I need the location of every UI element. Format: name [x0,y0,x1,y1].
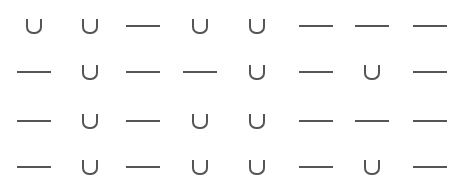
dash-symbol-icon [413,166,447,168]
symbol-cell [237,57,277,87]
cup-symbol-icon [82,65,98,80]
cup-symbol-icon [364,65,380,80]
dash-symbol-icon [299,71,333,73]
cup-symbol-icon [82,114,98,129]
cup-symbol-icon [192,160,208,175]
symbol-cell [352,152,392,182]
symbol-cell [237,11,277,41]
cup-symbol-icon [249,114,265,129]
dash-symbol-icon [17,120,51,122]
dash-symbol-icon [126,71,160,73]
symbol-cell [410,106,450,136]
symbol-cell [123,11,163,41]
dash-symbol-icon [17,71,51,73]
symbol-cell [14,57,54,87]
symbol-cell [70,57,110,87]
symbol-cell [410,57,450,87]
dash-symbol-icon [126,120,160,122]
symbol-cell [237,152,277,182]
cup-symbol-icon [249,160,265,175]
dash-symbol-icon [413,120,447,122]
dash-symbol-icon [299,120,333,122]
cup-symbol-icon [249,19,265,34]
cup-symbol-icon [26,19,42,34]
symbol-cell [296,106,336,136]
dash-symbol-icon [355,120,389,122]
symbol-cell [296,11,336,41]
symbol-cell [410,11,450,41]
symbol-cell [180,57,220,87]
dash-symbol-icon [17,166,51,168]
cup-symbol-icon [192,19,208,34]
symbol-cell [296,152,336,182]
symbol-cell [14,152,54,182]
cup-symbol-icon [192,114,208,129]
symbol-cell [70,11,110,41]
symbol-cell [123,106,163,136]
symbol-cell [123,152,163,182]
symbol-cell [352,57,392,87]
symbol-cell [180,11,220,41]
dash-symbol-icon [126,25,160,27]
symbol-cell [352,106,392,136]
dash-symbol-icon [299,25,333,27]
symbol-cell [352,11,392,41]
cup-symbol-icon [249,65,265,80]
dash-symbol-icon [413,25,447,27]
dash-symbol-icon [413,71,447,73]
symbol-cell [14,106,54,136]
symbol-cell [180,152,220,182]
dash-symbol-icon [355,25,389,27]
dash-symbol-icon [183,71,217,73]
symbol-cell [410,152,450,182]
dash-symbol-icon [299,166,333,168]
symbol-cell [237,106,277,136]
cup-symbol-icon [364,160,380,175]
symbol-cell [70,152,110,182]
symbol-cell [123,57,163,87]
cup-symbol-icon [82,160,98,175]
symbol-cell [14,11,54,41]
symbol-cell [296,57,336,87]
symbol-grid [0,0,467,182]
cup-symbol-icon [82,19,98,34]
symbol-cell [70,106,110,136]
dash-symbol-icon [126,166,160,168]
symbol-cell [180,106,220,136]
